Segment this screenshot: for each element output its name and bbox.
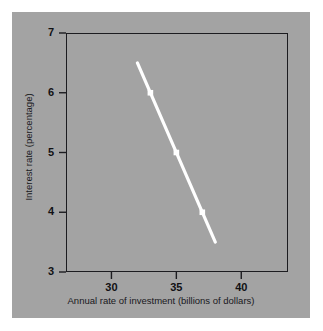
x-axis-label: Annual rate of investment (billions of d… bbox=[12, 295, 310, 306]
x-axis-ticks bbox=[111, 272, 241, 279]
y-tick-label-3: 3 bbox=[36, 266, 54, 277]
x-tick-label-30: 30 bbox=[98, 282, 124, 293]
x-tick-label-35: 35 bbox=[163, 282, 189, 293]
y-tick-label-6: 6 bbox=[36, 87, 54, 98]
chart-panel: 7 6 5 4 3 30 35 40 Annual rate of invest… bbox=[12, 12, 310, 318]
y-axis-label-wrapper: Interest rate (percentage) bbox=[22, 47, 36, 247]
y-tick-label-7: 7 bbox=[36, 27, 54, 38]
x-tick-label-40: 40 bbox=[228, 282, 254, 293]
y-axis-label: Interest rate (percentage) bbox=[22, 47, 36, 247]
y-axis-ticks bbox=[59, 33, 66, 272]
plot-area bbox=[66, 33, 288, 272]
y-tick-label-5: 5 bbox=[36, 147, 54, 158]
figure-canvas: 7 6 5 4 3 30 35 40 Annual rate of invest… bbox=[0, 0, 323, 331]
y-tick-label-4: 4 bbox=[36, 206, 54, 217]
